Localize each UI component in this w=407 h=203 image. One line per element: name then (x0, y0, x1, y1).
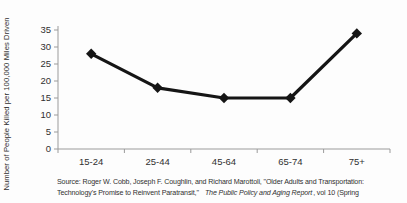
y-tick-label: 0 (46, 143, 51, 154)
x-tick-label: 65-74 (278, 156, 302, 167)
source-line-2: Technology's Promise to Reinvent Paratra… (57, 188, 407, 199)
y-tick-label: 5 (46, 126, 51, 137)
y-axis-title: Number of People Killed per 100,000 Mile… (2, 17, 11, 190)
data-point-marker (219, 93, 229, 103)
x-tick-label: 45-64 (212, 156, 236, 167)
source-line-1: Source: Roger W. Cobb, Joseph F. Coughli… (57, 177, 407, 188)
y-tick-label: 30 (40, 41, 51, 52)
line-chart: Number of People Killed per 100,000 Mile… (0, 0, 407, 203)
fatality-rate-chart-figure: Number of People Killed per 100,000 Mile… (0, 0, 407, 203)
source-line-2-pre: Technology's Promise to Reinvent Paratra… (57, 189, 199, 197)
series-line (91, 33, 357, 98)
y-tick-label: 25 (40, 58, 51, 69)
y-tick-label: 15 (40, 92, 51, 103)
y-tick-label: 35 (40, 24, 51, 35)
x-tick-label: 15-24 (79, 156, 103, 167)
y-tick-label: 10 (40, 109, 51, 120)
y-axis: 05101520253035 (40, 24, 58, 154)
source-citation: Source: Roger W. Cobb, Joseph F. Coughli… (57, 177, 407, 199)
y-tick-label: 20 (40, 75, 51, 86)
x-tick-label: 25-44 (145, 156, 169, 167)
data-series (86, 28, 362, 103)
source-journal-title: The Public Policy and Aging Report (205, 189, 312, 197)
x-tick-label: 75+ (349, 156, 366, 167)
source-line-2-post: , vol 10 (Spring (313, 189, 359, 197)
x-axis: 15-2425-4445-6465-7475+ (58, 149, 390, 167)
